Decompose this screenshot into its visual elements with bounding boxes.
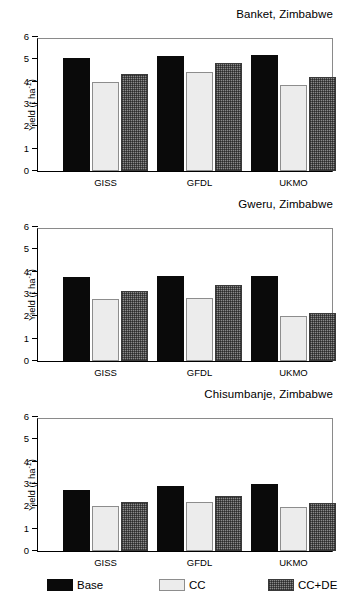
y-tick-label: 5 [24, 435, 29, 445]
bar-ccde [215, 285, 242, 361]
y-tick: 4 [32, 81, 38, 82]
y-tick: 6 [32, 226, 38, 227]
bar-cc [280, 316, 307, 361]
bar-group: GFDL [157, 229, 242, 361]
y-tick: 6 [32, 36, 38, 37]
bar-base [251, 55, 278, 171]
bar-cc [92, 82, 119, 171]
y-tick-label: 3 [24, 289, 29, 299]
y-tick-label: 1 [24, 334, 29, 344]
chart-panel-gweru: Gweru, Zimbabwe Yield (t ha-1) 0123456 G… [0, 190, 350, 380]
y-tick-label: 0 [24, 546, 29, 556]
y-tick-label: 3 [24, 479, 29, 489]
bar-base [63, 277, 90, 361]
y-tick-label: 2 [24, 122, 29, 132]
bar-cc [92, 299, 119, 361]
y-tick: 5 [32, 438, 38, 439]
y-tick: 6 [32, 416, 38, 417]
x-tick-label: GISS [94, 177, 117, 188]
y-tick: 2 [32, 125, 38, 126]
legend: Base CC CC+DE [0, 575, 350, 605]
y-tick-label: 6 [24, 32, 29, 42]
y-tick: 5 [32, 58, 38, 59]
y-tick-label: 0 [24, 356, 29, 366]
y-tick-label: 2 [24, 502, 29, 512]
y-tick: 0 [32, 550, 38, 551]
x-tick-label: GFDL [187, 557, 212, 568]
bar-base [157, 486, 184, 551]
y-tick: 2 [32, 505, 38, 506]
bar-group: UKMO [251, 39, 336, 171]
y-tick-label: 6 [24, 222, 29, 232]
bar-ccde [121, 74, 148, 171]
y-tick: 1 [32, 148, 38, 149]
bar-base [157, 56, 184, 171]
bar-cc [280, 85, 307, 171]
bar-group: GISS [63, 39, 148, 171]
bar-ccde [121, 291, 148, 361]
y-tick-label: 3 [24, 99, 29, 109]
y-tick: 4 [32, 461, 38, 462]
bar-cc [186, 298, 213, 361]
legend-item-cc: CC [159, 575, 206, 595]
y-tick-label: 1 [24, 144, 29, 154]
bar-cc [280, 507, 307, 551]
legend-item-base: Base [47, 575, 103, 595]
plot-area-banket: Yield (t ha-1) 0123456 GISSGFDLUKMO [37, 38, 333, 172]
bar-base [251, 276, 278, 361]
y-tick-label: 1 [24, 524, 29, 534]
bar-ccde [309, 503, 336, 551]
x-tick-label: UKMO [279, 367, 308, 378]
y-tick: 3 [32, 103, 38, 104]
y-tick: 2 [32, 315, 38, 316]
y-tick: 1 [32, 338, 38, 339]
bar-ccde [309, 313, 336, 361]
y-tick-label: 4 [24, 457, 29, 467]
base-swatch-icon [47, 579, 73, 591]
bar-group: GFDL [157, 419, 242, 551]
x-tick-label: GISS [94, 557, 117, 568]
chart-panel-banket: Banket, Zimbabwe Yield (t ha-1) 0123456 … [0, 0, 350, 190]
y-tick: 3 [32, 483, 38, 484]
plot-area-chisumbanje: Yield (t ha-1) 0123456 GISSGFDLUKMO [37, 418, 333, 552]
bar-base [157, 276, 184, 361]
bar-ccde [215, 63, 242, 171]
ccde-swatch-icon [268, 579, 294, 591]
y-tick-label: 0 [24, 166, 29, 176]
x-tick-label: GISS [94, 367, 117, 378]
bar-ccde [309, 77, 336, 171]
y-tick-label: 6 [24, 412, 29, 422]
panel-title-banket: Banket, Zimbabwe [236, 8, 333, 20]
y-tick-label: 5 [24, 55, 29, 65]
plot-area-gweru: Yield (t ha-1) 0123456 GISSGFDLUKMO [37, 228, 333, 362]
x-tick-label: UKMO [279, 557, 308, 568]
bar-cc [92, 506, 119, 551]
y-tick: 1 [32, 528, 38, 529]
bar-base [63, 490, 90, 551]
y-tick: 4 [32, 271, 38, 272]
y-tick: 0 [32, 360, 38, 361]
bar-ccde [121, 502, 148, 551]
figure-bar-chart-panels: Banket, Zimbabwe Yield (t ha-1) 0123456 … [0, 0, 350, 609]
panel-title-chisumbanje: Chisumbanje, Zimbabwe [204, 388, 333, 400]
bar-group: UKMO [251, 419, 336, 551]
y-tick: 5 [32, 248, 38, 249]
bar-base [63, 58, 90, 171]
bar-group: UKMO [251, 229, 336, 361]
legend-label-ccde: CC+DE [298, 579, 337, 591]
y-tick-label: 5 [24, 245, 29, 255]
panel-title-gweru: Gweru, Zimbabwe [238, 198, 333, 210]
y-tick: 0 [32, 170, 38, 171]
bar-group: GISS [63, 419, 148, 551]
y-tick: 3 [32, 293, 38, 294]
legend-item-ccde: CC+DE [268, 575, 337, 595]
chart-panel-chisumbanje: Chisumbanje, Zimbabwe Yield (t ha-1) 012… [0, 380, 350, 570]
y-tick-label: 4 [24, 267, 29, 277]
bar-ccde [215, 496, 242, 551]
x-tick-label: GFDL [187, 367, 212, 378]
legend-label-base: Base [77, 579, 103, 591]
bar-cc [186, 72, 213, 171]
bar-group: GFDL [157, 39, 242, 171]
bar-cc [186, 502, 213, 551]
legend-label-cc: CC [189, 579, 206, 591]
